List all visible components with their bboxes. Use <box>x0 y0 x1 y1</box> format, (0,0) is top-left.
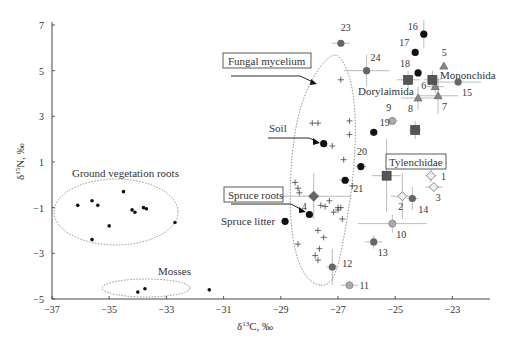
circle-marker <box>389 220 396 227</box>
dot-marker <box>133 210 137 214</box>
diamond-marker-icon <box>309 191 319 201</box>
point-label: 14 <box>418 204 428 215</box>
plus-marker-icon <box>316 246 322 252</box>
circle-marker <box>320 140 327 147</box>
y-tick-label: 7 <box>39 20 44 31</box>
scatter-chart: −37−35−33−31−29−27−25−23−5−3−11357 12345… <box>0 0 510 352</box>
point-label: 6 <box>421 80 426 91</box>
plus-marker-icon <box>312 253 318 259</box>
point-label: 5 <box>442 47 447 58</box>
circle-marker <box>370 129 377 136</box>
point-label: 10 <box>396 229 406 240</box>
spruce-roots-arrow <box>231 204 304 211</box>
spruce-roots-label: Spruce roots <box>228 189 283 201</box>
y-tick-label: −3 <box>33 248 44 259</box>
point-label: 13 <box>378 247 388 258</box>
circle-marker <box>342 177 349 184</box>
dot-marker <box>76 204 80 208</box>
soil-arrow <box>268 138 318 142</box>
x-tick-label: −29 <box>273 304 289 315</box>
tylenchidae-label: Tylenchidae <box>389 156 443 168</box>
triangle-marker-icon <box>414 94 422 101</box>
plus-marker-icon <box>292 180 298 186</box>
point-label: 23 <box>341 22 351 33</box>
point-label: 20 <box>357 146 367 157</box>
circle-marker <box>346 282 353 289</box>
soil-arrowhead-icon <box>313 138 320 145</box>
dot-marker <box>143 287 147 291</box>
square-marker-icon <box>411 126 420 135</box>
point-label: 8 <box>408 103 413 114</box>
dot-marker <box>136 290 140 294</box>
point-label: 16 <box>408 21 418 32</box>
x-tick-label: −23 <box>445 304 461 315</box>
plus-marker-icon <box>339 216 345 222</box>
point-label: 9 <box>386 102 391 113</box>
point-label: 1 <box>441 171 446 182</box>
y-tick-label: −5 <box>33 294 44 305</box>
square-marker-icon <box>404 75 413 84</box>
dorylaimida-label: Dorylaimida <box>358 85 414 97</box>
circle-marker <box>409 195 416 202</box>
plus-marker-icon <box>346 132 352 138</box>
circle-marker <box>370 238 377 245</box>
point-label: 7 <box>442 101 447 112</box>
fungal-ellipse <box>290 55 355 285</box>
x-tick-label: −31 <box>216 304 232 315</box>
point-label: 15 <box>462 87 472 98</box>
x-axis-title: δ13C, ‰ <box>237 320 273 332</box>
circle-marker <box>420 31 427 38</box>
circle-marker <box>306 211 313 218</box>
y-tick-label: 3 <box>39 111 44 122</box>
plus-marker-icon <box>329 143 335 149</box>
fungal-label: Fungal mycelium <box>228 55 306 67</box>
mosses-label: Mosses <box>158 265 191 277</box>
plus-marker-icon <box>295 241 301 247</box>
point-label: 11 <box>359 280 369 291</box>
y-tick-label: 1 <box>39 157 44 168</box>
point-label: 2 <box>398 201 403 212</box>
plus-marker-icon <box>322 203 328 209</box>
ground-veg-label: Ground vegetation roots <box>72 167 179 179</box>
point-label: 3 <box>436 192 441 203</box>
y-axis-title: δ15N, ‰ <box>14 143 26 180</box>
point-label: 24 <box>371 52 381 63</box>
x-tick-label: −37 <box>44 304 60 315</box>
dot-marker <box>122 190 126 194</box>
square-marker-icon <box>382 171 391 180</box>
plus-marker-icon <box>315 257 321 263</box>
plus-marker-icon <box>295 185 301 191</box>
x-tick-label: −33 <box>159 304 175 315</box>
dot-marker <box>145 207 149 211</box>
dot-marker <box>173 221 177 225</box>
point-label: 12 <box>342 258 352 269</box>
diamond-marker-icon <box>426 171 435 180</box>
dot-marker <box>96 204 100 208</box>
point-label: 18 <box>400 58 410 69</box>
circle-marker <box>389 117 396 124</box>
plus-marker-icon <box>318 202 324 208</box>
fungal-arrow <box>231 76 315 83</box>
fungal-arrowhead-icon <box>310 79 317 85</box>
x-tick-label: −27 <box>330 304 346 315</box>
dot-marker <box>208 288 212 292</box>
circle-marker <box>329 263 336 270</box>
spruce-litter-label: Spruce litter <box>221 215 275 227</box>
plus-marker-icon <box>326 198 332 204</box>
y-tick-label: 5 <box>39 66 44 77</box>
plus-marker-icon <box>346 118 352 124</box>
diamond-marker-icon <box>429 183 438 192</box>
circle-marker <box>363 67 370 74</box>
plus-marker-icon <box>296 190 302 196</box>
plus-marker-icon <box>315 120 321 126</box>
dot-marker <box>107 224 111 228</box>
mononchida-label: Mononchida <box>440 69 496 81</box>
point-label: 21 <box>353 183 363 194</box>
plus-marker-icon <box>309 120 315 126</box>
plus-marker-icon <box>338 77 344 83</box>
point-label: 17 <box>399 37 409 48</box>
circle-marker <box>412 49 419 56</box>
plus-marker-icon <box>341 157 347 163</box>
circle-marker <box>281 218 288 225</box>
diamond-marker-icon <box>398 192 407 201</box>
